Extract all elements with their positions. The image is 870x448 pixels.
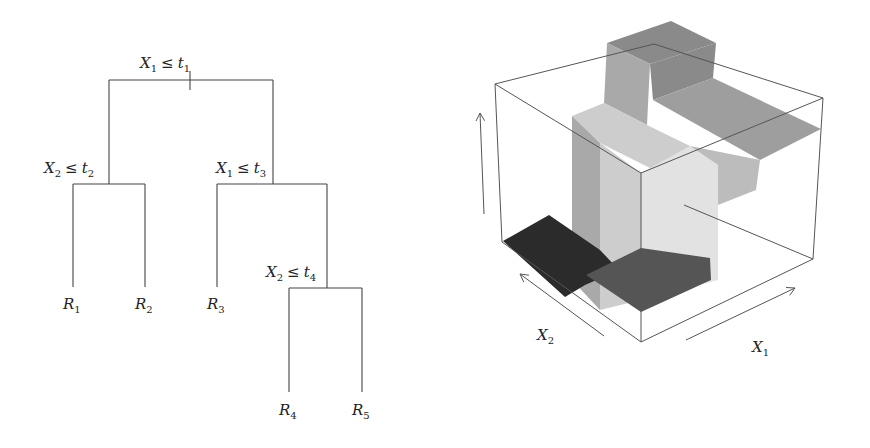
split-condition-label: X1≤t1 [139, 54, 190, 74]
axis-label-x2: X2 [536, 326, 554, 346]
z-axis-arrow [476, 113, 485, 214]
leaf-region-label: R3 [206, 295, 225, 315]
split-condition-label: X1≤t3 [215, 159, 266, 179]
figure-canvas: X1≤t1X2≤t2X1≤t3X2≤t4R1R2R3R4R5 X1X2 [0, 0, 870, 448]
tree-leaf-r4: R4 [278, 288, 297, 421]
axis-labels: X1X2 [536, 326, 769, 358]
tree-split-node: X2≤t4 [265, 184, 362, 288]
leaf-region-label: R5 [351, 401, 370, 421]
axis-label-x1: X1 [751, 338, 769, 358]
x1-axis-arrow [686, 288, 795, 340]
tree-leaf-r3: R3 [206, 184, 225, 315]
box-edge [813, 98, 823, 259]
piecewise-constant-surface-3d: X1X2 [476, 21, 823, 358]
surface-faces [503, 21, 821, 312]
arrow-shaft [686, 288, 795, 340]
split-condition-label: X2≤t2 [43, 159, 94, 179]
tree-split-node: X1≤t3 [215, 80, 327, 184]
decision-tree: X1≤t1X2≤t2X1≤t3X2≤t4R1R2R3R4R5 [43, 54, 370, 421]
tree-leaf-r2: R2 [134, 184, 153, 315]
tree-split-node: X2≤t2 [43, 80, 145, 184]
leaf-region-label: R4 [278, 401, 297, 421]
tree-leaf-r5: R5 [351, 288, 370, 421]
tree-leaf-r1: R1 [62, 184, 81, 315]
leaf-region-label: R1 [62, 295, 81, 315]
leaf-region-label: R2 [134, 295, 153, 315]
split-condition-label: X2≤t4 [265, 263, 316, 283]
box-edge [495, 84, 502, 242]
tree-split-node: X1≤t1 [109, 54, 273, 90]
arrow-shaft [480, 113, 484, 214]
